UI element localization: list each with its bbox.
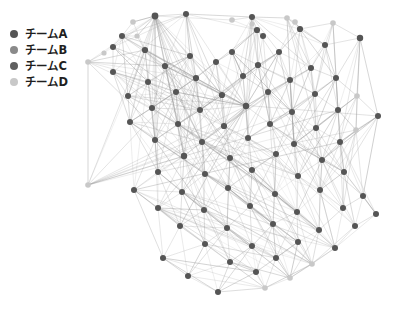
- graph-node[interactable]: [183, 11, 189, 17]
- graph-node[interactable]: [284, 15, 290, 21]
- graph-node[interactable]: [255, 62, 261, 68]
- graph-node[interactable]: [287, 275, 293, 281]
- graph-node[interactable]: [289, 109, 295, 115]
- graph-node[interactable]: [354, 93, 360, 99]
- graph-node[interactable]: [177, 223, 183, 229]
- legend-item-team-b[interactable]: チームB: [10, 42, 68, 58]
- graph-node[interactable]: [152, 13, 159, 20]
- graph-node[interactable]: [309, 261, 315, 267]
- graph-node[interactable]: [134, 33, 139, 38]
- graph-node[interactable]: [260, 33, 266, 39]
- graph-node[interactable]: [316, 227, 322, 233]
- graph-node[interactable]: [85, 182, 91, 188]
- graph-node[interactable]: [319, 157, 325, 163]
- graph-node[interactable]: [110, 69, 116, 75]
- graph-node[interactable]: [265, 89, 271, 95]
- graph-node[interactable]: [249, 21, 254, 26]
- graph-node[interactable]: [149, 105, 155, 111]
- graph-node[interactable]: [335, 107, 341, 113]
- graph-node[interactable]: [202, 171, 208, 177]
- graph-node[interactable]: [262, 285, 268, 291]
- legend-item-team-c[interactable]: チームC: [10, 58, 68, 74]
- graph-node[interactable]: [199, 139, 205, 145]
- graph-node[interactable]: [254, 27, 260, 33]
- graph-node[interactable]: [229, 17, 235, 23]
- graph-node[interactable]: [276, 49, 282, 55]
- graph-node[interactable]: [292, 19, 298, 25]
- legend-item-team-a[interactable]: チームA: [10, 26, 68, 42]
- graph-node[interactable]: [373, 211, 379, 217]
- graph-node[interactable]: [155, 205, 161, 211]
- graph-node[interactable]: [322, 42, 328, 48]
- graph-node[interactable]: [240, 73, 246, 79]
- graph-node[interactable]: [294, 209, 300, 215]
- graph-node[interactable]: [270, 221, 276, 227]
- graph-node[interactable]: [249, 167, 255, 173]
- graph-node[interactable]: [187, 53, 193, 59]
- graph-node[interactable]: [297, 26, 303, 32]
- graph-node[interactable]: [295, 173, 301, 179]
- graph-node[interactable]: [131, 187, 137, 193]
- graph-node[interactable]: [273, 151, 279, 157]
- graph-node[interactable]: [221, 123, 227, 129]
- graph-node[interactable]: [162, 63, 168, 69]
- graph-node[interactable]: [110, 44, 116, 50]
- graph-node[interactable]: [127, 119, 133, 125]
- graph-node[interactable]: [308, 65, 314, 71]
- graph-node[interactable]: [101, 50, 106, 55]
- graph-node[interactable]: [185, 273, 191, 279]
- graph-node[interactable]: [202, 241, 208, 247]
- graph-node[interactable]: [245, 135, 251, 141]
- graph-node[interactable]: [145, 79, 151, 85]
- graph-node[interactable]: [197, 107, 203, 113]
- graph-node[interactable]: [155, 169, 161, 175]
- graph-node[interactable]: [215, 289, 221, 295]
- graph-node[interactable]: [352, 223, 358, 229]
- graph-node[interactable]: [330, 20, 336, 26]
- graph-node[interactable]: [291, 141, 297, 147]
- graph-node[interactable]: [332, 245, 338, 251]
- graph-node[interactable]: [173, 89, 179, 95]
- graph-node[interactable]: [181, 153, 187, 159]
- graph-node[interactable]: [119, 33, 125, 39]
- graph-node[interactable]: [130, 19, 136, 25]
- graph-node[interactable]: [337, 139, 343, 145]
- graph-node[interactable]: [360, 193, 366, 199]
- graph-node[interactable]: [340, 205, 346, 211]
- graph-node[interactable]: [295, 239, 301, 245]
- graph-node[interactable]: [160, 255, 166, 261]
- graph-node[interactable]: [333, 75, 339, 81]
- graph-node[interactable]: [249, 14, 255, 20]
- graph-node[interactable]: [272, 191, 278, 197]
- graph-node[interactable]: [227, 259, 233, 265]
- graph-node[interactable]: [179, 189, 185, 195]
- graph-node[interactable]: [125, 93, 131, 99]
- graph-node[interactable]: [243, 103, 249, 109]
- graph-node[interactable]: [357, 35, 363, 41]
- graph-node[interactable]: [287, 77, 293, 83]
- graph-node[interactable]: [193, 75, 199, 81]
- graph-node[interactable]: [353, 127, 359, 133]
- graph-node[interactable]: [213, 59, 219, 65]
- graph-node[interactable]: [224, 225, 230, 231]
- graph-node[interactable]: [85, 59, 91, 65]
- graph-node[interactable]: [142, 47, 148, 53]
- legend-item-team-d[interactable]: チームD: [10, 74, 68, 90]
- graph-node[interactable]: [341, 169, 347, 175]
- graph-node[interactable]: [267, 121, 273, 127]
- graph-node[interactable]: [175, 121, 181, 127]
- graph-node[interactable]: [225, 185, 231, 191]
- graph-node[interactable]: [317, 187, 323, 193]
- graph-node[interactable]: [219, 92, 225, 98]
- graph-node[interactable]: [201, 207, 207, 213]
- graph-node[interactable]: [247, 203, 253, 209]
- graph-node[interactable]: [229, 49, 235, 55]
- graph-node[interactable]: [375, 113, 381, 119]
- graph-node[interactable]: [253, 269, 259, 275]
- graph-node[interactable]: [249, 243, 255, 249]
- graph-node[interactable]: [152, 137, 158, 143]
- graph-node[interactable]: [227, 155, 233, 161]
- graph-node[interactable]: [312, 91, 318, 97]
- graph-node[interactable]: [273, 255, 279, 261]
- graph-node[interactable]: [313, 125, 319, 131]
